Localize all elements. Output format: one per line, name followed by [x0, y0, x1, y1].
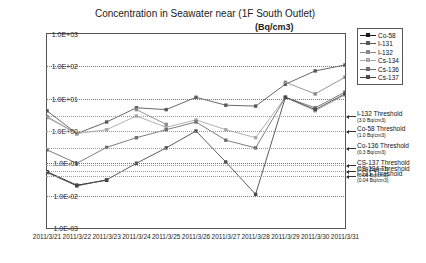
threshold-line — [46, 176, 344, 177]
threshold-label: I-131 Threshold — [357, 170, 402, 177]
data-point — [135, 108, 138, 111]
legend-item-cs-134[interactable]: Cs-134 — [360, 57, 399, 66]
threshold-value: (1.0 Bq/cm3) — [357, 132, 405, 138]
legend-item-cs-136[interactable]: Cs-136 — [360, 65, 399, 74]
data-point — [75, 184, 78, 187]
threshold-annotation: Co-136 Threshold(0.3 Bq/cm3) — [357, 142, 409, 155]
series-i-132 — [47, 76, 345, 136]
legend-item-co-58[interactable]: Co-58 — [360, 31, 399, 40]
series-cs-137 — [47, 92, 345, 196]
data-point — [165, 123, 168, 126]
legend-swatch-icon — [360, 74, 376, 82]
x-axis-tick-label: 2011/3/25 — [152, 233, 180, 240]
legend-swatch-icon — [360, 57, 376, 65]
y-axis-tick-label: 1.0E-02 — [53, 192, 78, 199]
x-axis-tick-label: 2011/3/31 — [331, 233, 359, 240]
legend-label: Co-58 — [378, 32, 396, 39]
threshold-annotation: I-132 Threshold(3.0 Bq/cm3) — [357, 110, 402, 123]
data-point — [105, 120, 108, 123]
threshold-label: Co-136 Threshold — [357, 142, 409, 149]
threshold-line — [46, 148, 344, 149]
threshold-arrow-icon — [347, 165, 356, 166]
legend-swatch-icon — [360, 31, 376, 39]
threshold-line — [46, 171, 344, 172]
legend-label: Cs-137 — [378, 74, 399, 81]
y-axis-tick-label: 1.0E+01 — [52, 95, 78, 102]
x-axis-tick-label: 2011/3/29 — [271, 233, 299, 240]
legend-item-i-131[interactable]: I-131 — [360, 40, 399, 49]
threshold-annotation: Co-58 Threshold(1.0 Bq/cm3) — [357, 125, 405, 138]
legend-swatch-icon — [360, 40, 376, 48]
threshold-annotation: I-131 Threshold(0.04 Bq/cm3) — [357, 170, 402, 183]
data-point — [224, 139, 227, 142]
data-point — [47, 109, 49, 112]
x-axis-tick-label: 2011/3/24 — [122, 233, 150, 240]
legend-item-i-132[interactable]: I-132 — [360, 48, 399, 57]
y-axis-tick-label: 1.0E+03 — [52, 31, 78, 38]
data-point — [314, 69, 317, 72]
threshold-value: (0.3 Bq/cm3) — [357, 149, 409, 155]
gridline — [46, 99, 344, 100]
data-point — [284, 81, 287, 84]
x-axis-tick-label: 2011/3/28 — [241, 233, 269, 240]
data-point — [194, 120, 197, 123]
data-point — [254, 136, 257, 139]
data-point — [105, 178, 108, 181]
data-point — [343, 76, 345, 79]
x-axis-tick-label: 2011/3/23 — [92, 233, 120, 240]
legend-swatch-icon — [360, 65, 376, 73]
threshold-label: I-132 Threshold — [357, 110, 402, 117]
threshold-value: (0.04 Bq/cm3) — [357, 177, 402, 183]
x-axis-tick-label: 2011/3/22 — [63, 233, 91, 240]
x-axis-tick-label: 2011/3/30 — [301, 233, 329, 240]
threshold-line — [46, 165, 344, 166]
threshold-line — [46, 116, 344, 117]
y-axis-tick-label: 1.0E+02 — [52, 63, 78, 70]
chart-container: Concentration in Seawater near (1F South… — [0, 0, 426, 263]
data-point — [254, 104, 257, 107]
legend-label: I-131 — [378, 40, 393, 47]
threshold-arrow-icon — [347, 171, 356, 172]
data-point — [224, 104, 227, 107]
y-axis-tick-label: 1.0E-03 — [53, 225, 78, 232]
chart-legend: Co-58I-131I-132Cs-134Cs-136Cs-137 — [357, 28, 403, 85]
chart-title: Concentration in Seawater near (1F South… — [60, 8, 350, 19]
threshold-line — [46, 131, 344, 132]
legend-item-cs-137[interactable]: Cs-137 — [360, 74, 399, 83]
threshold-arrow-icon — [347, 176, 356, 177]
data-point — [135, 136, 138, 139]
threshold-value: (3.0 Bq/cm3) — [357, 117, 402, 123]
threshold-label: Co-58 Threshold — [357, 125, 405, 132]
data-point — [314, 108, 317, 111]
x-axis-tick-label: 2011/3/27 — [212, 233, 240, 240]
data-point — [314, 92, 317, 95]
threshold-arrow-icon — [347, 131, 356, 132]
legend-label: I-132 — [378, 49, 393, 56]
legend-label: Cs-136 — [378, 66, 399, 73]
legend-swatch-icon — [360, 48, 376, 56]
threshold-arrow-icon — [347, 116, 356, 117]
legend-label: Cs-134 — [378, 57, 399, 64]
data-point — [165, 108, 168, 111]
chart-unit-label: (Bq/cm3) — [255, 22, 294, 32]
x-axis-tick-label: 2011/3/21 — [33, 233, 61, 240]
data-point — [343, 92, 345, 95]
threshold-arrow-icon — [347, 148, 356, 149]
gridline — [46, 196, 344, 197]
gridline — [46, 66, 344, 67]
x-axis-tick-label: 2011/3/26 — [182, 233, 210, 240]
